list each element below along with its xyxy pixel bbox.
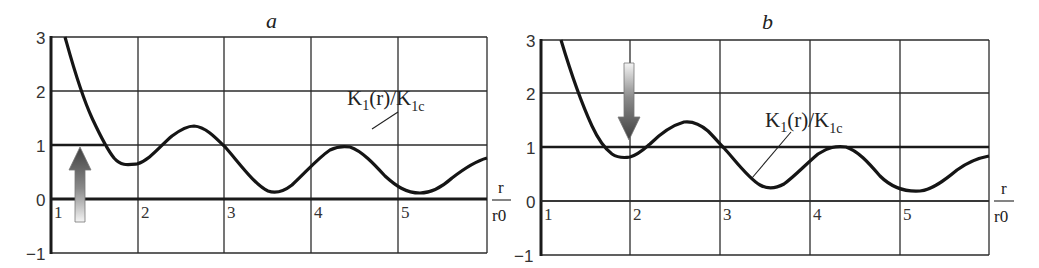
panel-b-xtick: 1	[544, 205, 553, 224]
panel-b-xtick: 4	[813, 205, 822, 224]
panel-a-label-leader	[372, 112, 398, 129]
panel-b-ytick: 0	[526, 193, 535, 212]
panel-a-ytick: 3	[36, 29, 45, 48]
panel-b-xtick: 3	[723, 205, 732, 224]
panel-a-ytick: 0	[36, 191, 45, 210]
panel-b-ytick: 1	[526, 139, 535, 158]
panel-b-ytick: −1	[514, 247, 533, 266]
panel-a: a 3 2 1 0 −1 1 2 3 4 5	[26, 8, 511, 264]
panel-b-unit-top: r	[1001, 179, 1007, 198]
panel-b-unit-bottom: r0	[994, 207, 1008, 226]
panel-a-ytick: −1	[26, 245, 45, 264]
panel-b-down-arrow-icon	[618, 63, 640, 140]
panel-b-title: b	[762, 9, 773, 34]
panel-a-up-arrow-icon	[69, 147, 91, 222]
panel-b-ytick: 2	[526, 85, 535, 104]
panel-a-xtick: 3	[227, 203, 236, 222]
panel-b-label-leader	[752, 132, 791, 178]
panel-a-xtick: 4	[314, 203, 323, 222]
figure: a 3 2 1 0 −1 1 2 3 4 5	[0, 0, 1039, 268]
panel-b-xtick: 5	[903, 205, 912, 224]
panel-a-curve	[65, 37, 487, 193]
panel-b: b 3 2 1 0 −1 1 2 3 4 5	[514, 9, 1014, 266]
panel-a-ytick: 2	[36, 83, 45, 102]
panel-a-grid	[51, 37, 487, 253]
panel-a-unit-bottom: r0	[492, 206, 506, 225]
panel-a-title: a	[266, 8, 277, 33]
panel-a-xtick: 2	[141, 203, 150, 222]
panel-a-xtick: 5	[401, 203, 410, 222]
panel-b-ytick: 3	[526, 32, 535, 51]
panel-a-unit-top: r	[498, 178, 504, 197]
panel-a-series-label: K1(r)/K1c	[347, 86, 424, 114]
panel-a-ytick: 1	[36, 137, 45, 156]
panel-b-xtick: 2	[633, 205, 642, 224]
panel-a-xtick: 1	[54, 203, 63, 222]
panel-b-series-label: K1(r)/K1c	[765, 108, 842, 136]
